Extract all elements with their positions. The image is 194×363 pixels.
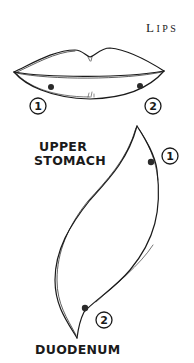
lips-label-rest: IPS	[156, 23, 178, 34]
lips-point-1	[48, 84, 54, 90]
upper-stomach-label-line2: STOMACH	[34, 154, 106, 168]
marker-lips-1: 1	[30, 98, 46, 114]
marker-lips-2: 2	[145, 98, 161, 114]
svg-text:2: 2	[149, 100, 157, 113]
stomach-point-1	[148, 159, 154, 165]
stomach-point-2	[82, 305, 88, 311]
svg-text:1: 1	[34, 100, 42, 113]
upper-stomach-label: UPPER STOMACH	[34, 140, 106, 168]
lips-label-initial: L	[146, 20, 156, 35]
marker-stomach-1: 1	[162, 148, 178, 164]
diagram-canvas: 1 2 1 2	[0, 0, 194, 363]
lips-label: LIPS	[146, 20, 178, 36]
marker-stomach-2: 2	[96, 312, 112, 328]
svg-text:2: 2	[100, 314, 108, 327]
upper-stomach-label-line1: UPPER	[34, 140, 106, 154]
duodenum-label: DUODENUM	[35, 342, 121, 357]
lips-point-2	[137, 83, 143, 89]
lips-drawing	[14, 48, 164, 99]
svg-text:1: 1	[166, 150, 174, 163]
